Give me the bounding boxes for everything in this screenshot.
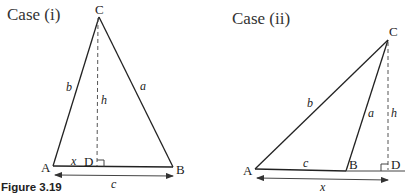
case-i-vertex-c: C [95, 2, 104, 17]
case-i-label-c: c [111, 177, 117, 191]
case-ii-right-angle-icon [381, 164, 388, 171]
case-i-side-b [53, 17, 99, 166]
case-i-right-angle-icon [97, 160, 104, 167]
case-i-altitude [97, 18, 98, 166]
case-i-side-a [99, 17, 173, 167]
case-ii-label-x: x [319, 180, 326, 194]
case-ii-label-c: c [303, 156, 309, 170]
case-i-vertex-d: D [84, 154, 93, 169]
case-i-vertex-b: B [176, 162, 185, 177]
figure-canvas: Case (i) C A B D b a h x c Case (ii) [0, 0, 412, 195]
case-ii-vertex-c: C [389, 24, 398, 39]
case-ii-diagram: Case (ii) C A B D b a h c x [232, 9, 405, 194]
case-ii-vertex-d: D [391, 157, 400, 172]
case-i-title: Case (i) [7, 5, 60, 24]
case-i-diagram: Case (i) C A B D b a h x c [7, 2, 185, 191]
case-i-c-dimension-arrow [55, 175, 173, 176]
case-i-label-x: x [70, 154, 77, 168]
case-i-label-b: b [66, 80, 72, 94]
case-i-label-h: h [101, 93, 107, 107]
case-ii-vertex-a: A [243, 163, 253, 178]
figure-caption: Figure 3.19 [1, 181, 62, 193]
case-ii-title: Case (ii) [232, 9, 290, 28]
case-ii-vertex-b: B [349, 157, 358, 172]
case-i-label-a: a [140, 79, 146, 93]
case-ii-side-c [255, 169, 346, 171]
case-ii-label-h: h [391, 106, 397, 120]
case-ii-side-b [255, 40, 388, 169]
case-ii-label-b: b [307, 96, 313, 110]
case-i-vertex-a: A [41, 160, 51, 175]
case-ii-label-a: a [368, 106, 374, 120]
